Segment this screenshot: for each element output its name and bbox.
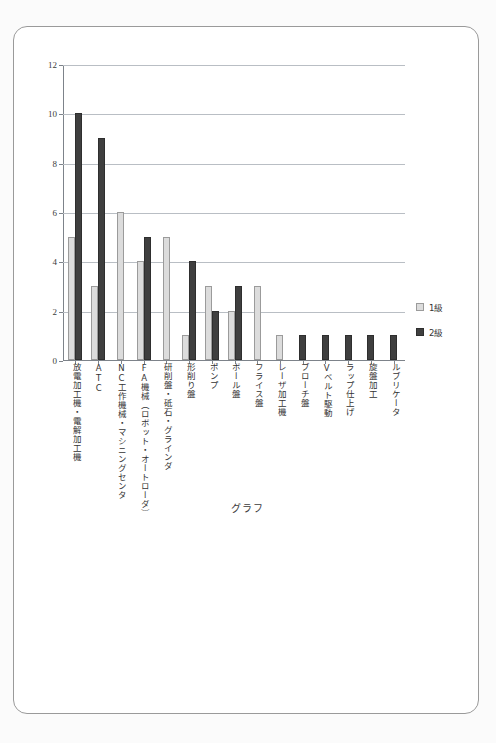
bar-chart: 024681012 放電加工機・電解加工機ATCNC工作機械・マシニングセンタF… [14,27,480,715]
y-axis-tick-mark [59,361,63,362]
bar-group [246,65,269,360]
bar-s1 [276,335,283,360]
bar-s1 [205,286,212,360]
y-axis-tick-mark [59,164,63,165]
x-axis-label-text: NC工作機械・マシニングセンタ [117,363,126,483]
x-axis-label: NC工作機械・マシニングセンタ [110,363,133,483]
bar-group [360,65,383,360]
bar-s1 [91,286,98,360]
bar-s1 [254,286,261,360]
y-axis-tick-label: 6 [53,208,58,218]
x-axis-label-text: ラップ仕上げ [345,363,354,483]
y-axis-tick-label: 2 [53,307,58,317]
bar-s2 [390,335,397,360]
bar-group [87,65,110,360]
x-axis-label: 形削り盤 [178,363,201,483]
legend-swatch-1kyu [416,303,424,311]
bar-s1 [228,311,235,360]
x-axis-label: ラップ仕上げ [338,363,361,483]
x-axis-label-text: ブローチ盤 [299,363,308,483]
legend-label-1kyu: 1級 [429,301,443,313]
legend-swatch-2kyu [416,328,424,336]
x-axis-label-text: フライス盤 [253,363,262,483]
x-axis-label-text: 放電加工機・電解加工機 [71,363,80,483]
bar-group [337,65,360,360]
x-axis-label-text: FA機械（ロボット・オートローダ） [139,363,148,483]
bar-s1 [163,237,170,360]
y-axis-tick-label: 0 [53,356,58,366]
bar-series-group [64,65,405,360]
y-axis-tick-label: 8 [53,159,58,169]
bar-s2 [144,237,151,360]
x-axis-label: FA機械（ロボット・オートローダ） [132,363,155,483]
y-axis-tick-mark [59,262,63,263]
legend-item-2kyu: 2級 [416,326,443,338]
bar-s2 [345,335,352,360]
bar-group [291,65,314,360]
x-axis-label-text: 旋盤加工 [367,363,376,483]
x-axis-label: ATC [87,363,110,483]
x-axis-label: ポンプ [201,363,224,483]
bar-group [269,65,292,360]
x-axis-label-text: ボール盤 [231,363,240,483]
bar-s2 [98,138,105,360]
y-axis-tick-label: 10 [48,109,57,119]
y-axis-tick-mark [59,114,63,115]
legend-item-1kyu: 1級 [416,301,443,313]
bar-s2 [189,261,196,360]
bar-s2 [322,335,329,360]
bar-s1 [117,212,124,360]
bar-s2 [367,335,374,360]
x-axis-label: ボール盤 [224,363,247,483]
y-axis-tick-label: 4 [53,257,58,267]
bar-group [223,65,246,360]
x-axis-label-text: Vベルト駆動 [322,363,331,483]
y-axis-tick-mark [59,312,63,313]
x-axis-label-text: 研削盤・砥石・グラインダ [162,363,171,483]
x-axis-label-text: 形削り盤 [185,363,194,483]
bar-group [132,65,155,360]
document-page-frame: 024681012 放電加工機・電解加工機ATCNC工作機械・マシニングセンタF… [13,26,479,714]
plot-area: 024681012 [63,65,405,361]
y-axis-tick-mark [59,65,63,66]
x-axis-label: フライス盤 [246,363,269,483]
bar-s1 [68,237,75,360]
x-axis-labels: 放電加工機・電解加工機ATCNC工作機械・マシニングセンタFA機械（ロボット・オ… [64,363,406,483]
bar-s2 [299,335,306,360]
x-axis-label: Vベルト駆動 [315,363,338,483]
chart-title: グラフ [14,500,480,515]
bar-s2 [75,113,82,360]
x-axis-label: レーザ加工機 [269,363,292,483]
bar-s2 [235,286,242,360]
x-axis-label-text: ルブリケータ [390,363,399,483]
bar-group [178,65,201,360]
legend-label-2kyu: 2級 [429,326,443,338]
x-axis-label: 旋盤加工 [360,363,383,483]
chart-legend: 1級 2級 [416,301,443,338]
y-axis-tick-mark [59,213,63,214]
x-axis-label: ルブリケータ [383,363,406,483]
x-axis-label: 放電加工機・電解加工機 [64,363,87,483]
bar-group [155,65,178,360]
bar-group [382,65,405,360]
x-axis-label-text: ポンプ [208,363,217,483]
y-axis-tick-label: 12 [48,60,57,70]
x-axis-label: 研削盤・砥石・グラインダ [155,363,178,483]
bar-s2 [212,311,219,360]
x-axis-label-text: レーザ加工機 [276,363,285,483]
bar-group [64,65,87,360]
bar-s1 [137,261,144,360]
bar-s1 [182,335,189,360]
bar-group [200,65,223,360]
bar-group [314,65,337,360]
x-axis-label: ブローチ盤 [292,363,315,483]
x-axis-label-text: ATC [94,363,103,483]
bar-group [109,65,132,360]
